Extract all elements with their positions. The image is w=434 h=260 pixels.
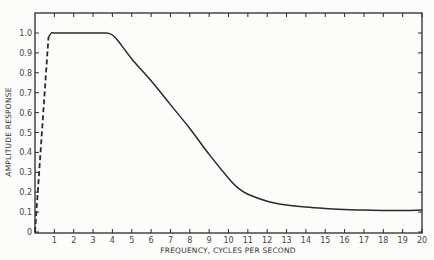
x-axis-ticks: 1234567891011121314151617181920 (52, 229, 427, 245)
x-tick-label: 6 (149, 236, 154, 245)
y-tick-label: 0.1 (19, 208, 32, 217)
dashed-rise-line (35, 37, 49, 232)
x-tick-label: 18 (378, 236, 388, 245)
y-tick-label: 0.5 (19, 129, 32, 138)
y-tick-label: 0.7 (19, 89, 32, 98)
x-tick-label: 7 (168, 236, 173, 245)
x-tick-label: 1 (52, 236, 57, 245)
x-tick-label: 16 (340, 236, 350, 245)
amplitude-response-chart: 00.10.20.30.40.50.60.70.80.91.0 12345678… (0, 0, 434, 260)
x-tick-label: 13 (281, 236, 291, 245)
x-tick-label: 3 (91, 236, 96, 245)
plot-frame (35, 13, 422, 233)
x-tick-label: 17 (359, 236, 369, 245)
x-tick-label: 12 (262, 236, 272, 245)
plot-border (35, 13, 422, 233)
x-tick-label: 4 (110, 236, 115, 245)
x-tick-label: 11 (243, 236, 253, 245)
y-axis-title: AMPLITUDE RESPONSE (4, 87, 13, 176)
x-tick-label: 19 (398, 236, 408, 245)
y-tick-label: 1.0 (19, 29, 32, 38)
y-tick-label: 0 (27, 228, 32, 237)
x-tick-label: 8 (187, 236, 192, 245)
x-tick-label: 2 (71, 236, 76, 245)
y-tick-label: 0.3 (19, 168, 32, 177)
y-tick-label: 0.9 (19, 49, 32, 58)
amplitude-response-line (49, 33, 423, 211)
y-tick-label: 0.6 (19, 109, 32, 118)
y-tick-label: 0.8 (19, 69, 32, 78)
x-tick-label: 9 (207, 236, 212, 245)
x-tick-label: 20 (417, 236, 427, 245)
y-tick-label: 0.2 (19, 188, 32, 197)
x-tick-label: 10 (223, 236, 233, 245)
x-tick-label: 5 (129, 236, 134, 245)
x-tick-label: 14 (301, 236, 311, 245)
y-tick-label: 0.4 (19, 148, 32, 157)
x-tick-label: 15 (320, 236, 330, 245)
x-axis-title: FREQUENCY, CYCLES PER SECOND (160, 246, 296, 255)
